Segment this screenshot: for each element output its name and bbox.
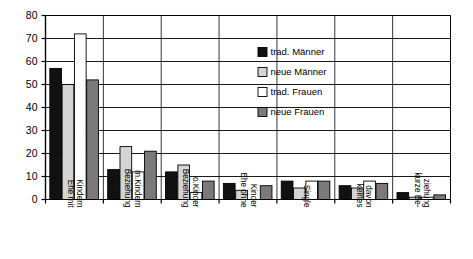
bar-7-4: neue Frauen – kurze Be-ziehung: 2 xyxy=(434,195,446,200)
bar-3-4: neue Frauen – Beziehung o.Kinder: 8 xyxy=(202,181,214,199)
x-category-label-7-line-1: kurze Be- xyxy=(413,172,422,207)
bar-2-1: trad. Männer – Beziehung m.Kindern: 13 xyxy=(108,170,120,200)
legend-swatch-4 xyxy=(258,108,267,117)
bar-7-1: trad. Männer – kurze Be-ziehung: 3 xyxy=(397,193,409,200)
legend-label-4: neue Frauen xyxy=(271,106,325,117)
x-category-label-5-line-1: Single xyxy=(302,185,311,208)
legend-swatch-1 xyxy=(258,48,267,57)
bar-1-3: trad. Frauen – Ehe mit Kindern: 72 xyxy=(74,34,86,200)
bar-2-4: neue Frauen – Beziehung m.Kindern: 21 xyxy=(145,151,157,199)
y-tick-label-70: 70 xyxy=(26,32,38,44)
x-category-label-4-line-1: Ehe ohne xyxy=(239,172,248,208)
chart-canvas: trad. Männer – Ehe mit Kindern: 57neue M… xyxy=(0,0,473,259)
y-tick-label-40: 40 xyxy=(26,101,38,113)
legend-swatch-2 xyxy=(258,68,267,77)
y-tick-label-80: 80 xyxy=(26,9,38,21)
x-category-label-3-line-2: o.Kinder xyxy=(191,177,200,208)
bar-chart: trad. Männer – Ehe mit Kindern: 57neue M… xyxy=(0,0,473,259)
x-category-label-6-line-2: davon xyxy=(364,185,373,208)
bar-6-4: neue Frauen – keines davon: 7 xyxy=(376,183,388,199)
y-tick-label-20: 20 xyxy=(26,147,38,159)
legend-label-2: neue Männer xyxy=(271,66,327,77)
legend-label-1: trad. Männer xyxy=(271,46,325,57)
x-category-label-6-line-1: keines xyxy=(355,184,364,208)
bar-4-1: trad. Männer – Ehe ohne Kinder: 7 xyxy=(223,183,235,199)
x-category-label-3-line-1: Beziehung xyxy=(181,169,190,208)
x-category-label-2-line-1: Beziehung xyxy=(123,169,132,208)
x-category-label-4-line-2: Kinder xyxy=(249,184,258,208)
y-tick-label-50: 50 xyxy=(26,78,38,90)
y-tick-label-10: 10 xyxy=(26,170,38,182)
bar-5-4: neue Frauen – Single: 8 xyxy=(318,181,330,199)
bar-5-1: trad. Männer – Single: 8 xyxy=(281,181,293,199)
x-category-label-7-line-2: ziehung xyxy=(422,179,431,208)
y-tick-label-30: 30 xyxy=(26,124,38,136)
bar-6-1: trad. Männer – keines davon: 6 xyxy=(339,186,351,200)
bar-1-1: trad. Männer – Ehe mit Kindern: 57 xyxy=(50,68,62,199)
legend-label-3: trad. Frauen xyxy=(271,86,323,97)
legend-swatch-3 xyxy=(258,88,267,97)
x-category-label-1-line-1: Ehe mit xyxy=(66,180,75,208)
bar-4-4: neue Frauen – Ehe ohne Kinder: 6 xyxy=(260,186,272,200)
x-category-label-2-line-2: m.Kindern xyxy=(133,170,142,208)
x-category-label-1-line-2: Kindern xyxy=(75,179,84,208)
y-tick-label-0: 0 xyxy=(32,193,38,205)
bar-1-4: neue Frauen – Ehe mit Kindern: 52 xyxy=(87,80,99,200)
bar-3-1: trad. Männer – Beziehung o.Kinder: 12 xyxy=(166,172,178,200)
y-tick-label-60: 60 xyxy=(26,55,38,67)
